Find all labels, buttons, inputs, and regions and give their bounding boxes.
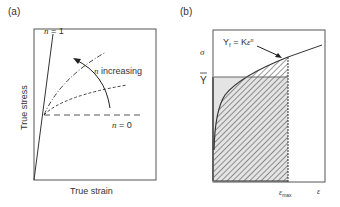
- panel-a-label: (a): [8, 6, 20, 17]
- curve-n1: [34, 34, 53, 180]
- flow-curve-extension: [288, 45, 322, 57]
- panel-a: (a) n = 1 n increasing n = 0 True strain…: [8, 6, 156, 196]
- panel-a-frame: [34, 29, 156, 180]
- flow-equation: Yf = Kεn: [223, 37, 254, 48]
- label-n1: n = 1: [44, 26, 64, 36]
- epsilon-max-label: εmax: [279, 188, 292, 198]
- y-axis-label: True stress: [19, 85, 29, 130]
- label-n-increasing: n increasing: [94, 66, 142, 76]
- panel-b: (b) σ Y Yf = Kεn εmax ε: [180, 6, 325, 198]
- curve-mid-n: [44, 85, 127, 115]
- pointer-arrow-icon: [275, 53, 282, 58]
- arrow-head-icon: [73, 58, 81, 64]
- sigma-label: σ: [200, 47, 205, 57]
- flow-curve-figure: (a) n = 1 n increasing n = 0 True strain…: [0, 0, 340, 207]
- x-axis-label: True strain: [70, 186, 113, 196]
- curve-high-n: [44, 52, 106, 115]
- ybar-label: Y: [200, 75, 207, 86]
- equation-pointer: [257, 46, 279, 56]
- area-under-flow-curve: [214, 57, 288, 181]
- epsilon-axis-label: ε: [317, 187, 321, 196]
- label-n0: n = 0: [112, 120, 132, 130]
- panel-b-label: (b): [180, 6, 192, 17]
